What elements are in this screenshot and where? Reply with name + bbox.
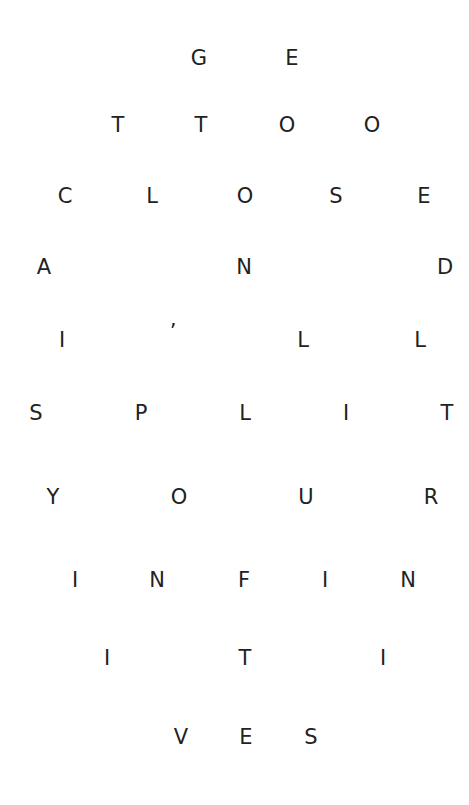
poem-letter: L <box>146 186 158 207</box>
poem-letter: L <box>239 403 251 424</box>
poem-letter: N <box>236 257 252 278</box>
poem-letter: L <box>297 330 309 351</box>
poem-letter: G <box>191 48 207 69</box>
poem-letter: E <box>285 48 298 69</box>
poem-letter: S <box>329 186 342 207</box>
poem-letter: S <box>29 403 42 424</box>
poem-letter: P <box>135 403 148 424</box>
poem-letter: S <box>304 727 317 748</box>
poem-letter: D <box>437 257 453 278</box>
poem-letter: T <box>112 115 125 136</box>
poem-letter: I <box>380 648 386 669</box>
poem-letter: N <box>400 570 416 591</box>
poem-letter: Y <box>47 487 60 508</box>
poem-letter: C <box>58 186 73 207</box>
poem-letter: O <box>279 115 296 136</box>
concrete-poem-canvas: GETTOOCLOSEANDI’LLSPLITYOURINFINITIVES <box>0 0 469 805</box>
poem-letter: U <box>298 487 313 508</box>
poem-letter: T <box>195 115 208 136</box>
poem-letter: O <box>364 115 381 136</box>
poem-letter: F <box>238 570 250 591</box>
poem-letter: A <box>37 257 51 278</box>
poem-letter: E <box>239 727 252 748</box>
poem-letter: V <box>174 727 188 748</box>
poem-letter: O <box>171 487 188 508</box>
poem-letter: I <box>343 403 349 424</box>
poem-letter: T <box>239 648 252 669</box>
poem-letter: ’ <box>170 322 177 343</box>
poem-letter: E <box>417 186 430 207</box>
poem-letter: I <box>322 570 328 591</box>
poem-letter: I <box>104 648 110 669</box>
poem-letter: R <box>424 487 439 508</box>
poem-letter: T <box>441 403 454 424</box>
poem-letter: O <box>237 186 254 207</box>
poem-letter: I <box>59 330 65 351</box>
poem-letter: I <box>72 570 78 591</box>
poem-letter: L <box>414 330 426 351</box>
poem-letter: N <box>149 570 165 591</box>
